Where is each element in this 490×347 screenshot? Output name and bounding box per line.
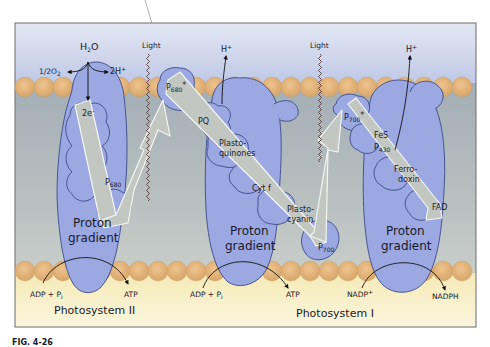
pq-label: PQ [198,117,209,126]
two-e-label: 2e [82,109,92,118]
light-label-2: Light [310,41,329,50]
plastocyanin-label-1: Plasto- [287,205,314,214]
nadp-label: NADP [347,290,369,299]
svg-text:ADP + Pi: ADP + Pi [30,290,63,300]
photosystem-i-title: Photosystem I [296,307,374,320]
ps2-gradient-line2: gradient [68,231,119,245]
light-label-1: Light [142,41,161,50]
cyt-gradient-line2: gradient [225,239,276,253]
ferredoxin-label-2: doxin [398,175,420,184]
plastoquinones-label-1: Plasto- [219,139,246,148]
plastoquinones-label-2: quinones [219,149,256,158]
ps1-gradient-line1: Proton [386,224,425,238]
atp-label-2: ATP [286,290,300,299]
adp-pi-label-1: ADP + P [30,290,61,299]
nadph-label: NADPH [432,292,459,301]
ps1-gradient-line2: gradient [381,239,432,253]
adp-pi-label-2: ADP + P [190,290,221,299]
ferredoxin-label-1: Ferro- [394,165,417,174]
fes-label: FeS [374,131,388,140]
plastocyanin-label-2: cyanin [287,215,313,224]
svg-text:ADP + Pi: ADP + Pi [190,290,223,300]
figure-caption: FIG. 4-26 [12,338,53,347]
cyt-gradient-line1: Proton [230,224,269,238]
atp-label-1: ATP [124,290,138,299]
fad-label: FAD [432,203,448,212]
h2o-label: H [80,41,87,52]
two-h-plus-label: 2H [110,67,121,76]
photosystem-ii-title: Photosystem II [54,304,135,317]
photosynthesis-diagram: H2O 1/2O2 2H+ Light H+ Light H+ 2e- P680… [0,0,490,347]
cyt-f-label: Cyt f [252,184,271,193]
half-o2-label: 1/2O [39,67,57,76]
ps2-gradient-line1: Proton [73,216,112,230]
